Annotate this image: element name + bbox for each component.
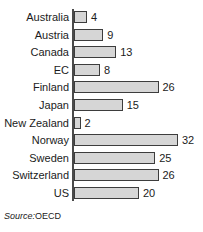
bar-value-label: 9 — [107, 28, 113, 42]
bar-value-label: 26 — [163, 168, 175, 182]
bar — [74, 134, 178, 146]
bar-value-label: 15 — [127, 98, 139, 112]
chart-row: Japan 15 — [0, 97, 203, 115]
chart-row: Sweden 25 — [0, 150, 203, 168]
bar — [74, 187, 139, 199]
bar-value-label: 25 — [159, 151, 171, 165]
source-value: OECD — [35, 211, 61, 221]
bar — [74, 117, 81, 129]
bar — [74, 64, 100, 76]
category-label: Switzerland — [0, 168, 69, 182]
category-label: US — [0, 186, 69, 200]
bar — [74, 11, 87, 23]
bar-value-label: 2 — [85, 116, 91, 130]
bar-value-label: 4 — [91, 10, 97, 24]
bar — [74, 29, 103, 41]
bar — [74, 81, 159, 93]
chart-row: Canada 13 — [0, 44, 203, 62]
bar — [74, 152, 155, 164]
category-label: Sweden — [0, 151, 69, 165]
plot-area: Australia 4 Austria 9 Canada 13 EC 8 Fin… — [0, 0, 203, 232]
bar — [74, 99, 123, 111]
category-label: Austria — [0, 28, 69, 42]
category-label: EC — [0, 63, 69, 77]
category-label: New Zealand — [0, 116, 69, 130]
bar — [74, 169, 159, 181]
category-label: Finland — [0, 80, 69, 94]
chart-row: Norway 32 — [0, 132, 203, 150]
category-label: Norway — [0, 133, 69, 147]
chart-row: Switzerland 26 — [0, 167, 203, 185]
chart-row: US 20 — [0, 185, 203, 203]
category-label: Canada — [0, 45, 69, 59]
bar-chart: Australia 4 Austria 9 Canada 13 EC 8 Fin… — [0, 0, 203, 232]
source-note: Source:OECD — [4, 210, 61, 222]
bar-value-label: 26 — [163, 80, 175, 94]
chart-row: Finland 26 — [0, 79, 203, 97]
bar-value-label: 32 — [182, 133, 194, 147]
bar-value-label: 20 — [143, 186, 155, 200]
source-label: Source: — [4, 211, 35, 221]
bar-value-label: 13 — [120, 45, 132, 59]
bar — [74, 46, 116, 58]
bar-value-label: 8 — [104, 63, 110, 77]
chart-row: Austria 9 — [0, 27, 203, 45]
category-label: Australia — [0, 10, 69, 24]
chart-row: New Zealand 2 — [0, 115, 203, 133]
category-label: Japan — [0, 98, 69, 112]
chart-row: EC 8 — [0, 62, 203, 80]
chart-row: Australia 4 — [0, 9, 203, 27]
